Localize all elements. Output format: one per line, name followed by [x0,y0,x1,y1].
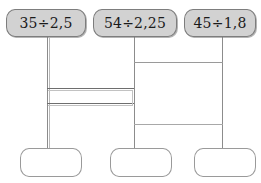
expression-box-2-label: 54÷2,25 [104,16,166,30]
expression-box-1[interactable]: 35÷2,5 [6,9,86,37]
expression-box-1-label: 35÷2,5 [19,16,72,30]
diagram-canvas: 35÷2,5 54÷2,25 45÷1,8 [0,0,261,183]
expression-box-2[interactable]: 54÷2,25 [93,9,177,37]
answer-box-3[interactable] [194,148,256,177]
answer-box-1[interactable] [20,148,82,177]
expression-box-3-label: 45÷1,8 [193,16,246,30]
answer-box-2[interactable] [110,148,172,177]
expression-box-3[interactable]: 45÷1,8 [184,9,256,37]
